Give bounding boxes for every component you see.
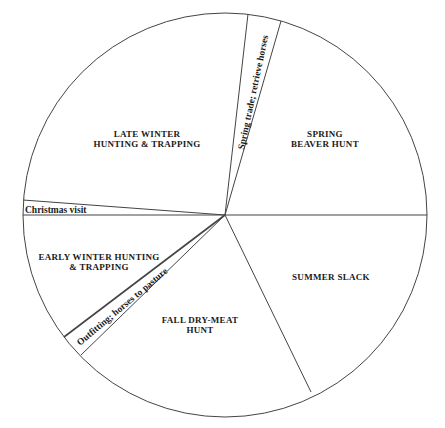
label-spring-beaver-1: SPRING [307,129,343,139]
label-fall-2: HUNT [186,325,213,335]
label-late-winter-2: HUNTING & TRAPPING [93,139,200,149]
label-spring-beaver-2: BEAVER HUNT [291,139,359,149]
label-early-winter-1: EARLY WINTER HUNTING [38,252,159,262]
label-early-winter-2: & TRAPPING [69,262,129,272]
label-fall-1: FALL DRY-MEAT [162,315,239,325]
label-christmas: Christmas visit [25,205,87,215]
label-summer: SUMMER SLACK [292,272,370,282]
label-late-winter-1: LATE WINTER [114,129,181,139]
seasonal-cycle-pie-chart: LATE WINTER HUNTING & TRAPPING SPRING BE… [0,0,445,428]
